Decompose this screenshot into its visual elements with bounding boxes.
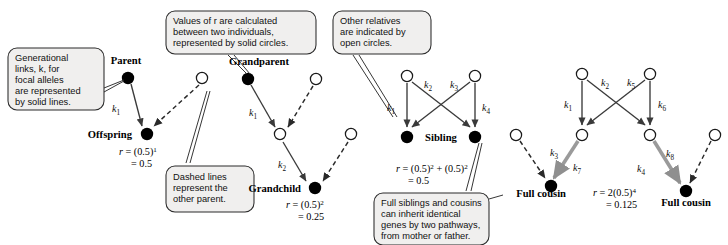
callout-line: Other relatives [340, 16, 401, 26]
svg-text:r = (0.5)2 + (0.5)2: r = (0.5)2 + (0.5)2 [396, 163, 468, 175]
node-offspring [141, 128, 153, 140]
callout-line: Full siblings and cousins [381, 198, 482, 208]
formula-grandchild: r = (0.5)2 = 0.25 [286, 199, 324, 222]
callout-line: are indicated by [340, 27, 406, 37]
callout-line: represent the [173, 183, 228, 193]
callout-line: are represented [15, 86, 81, 96]
callout-line: by solid lines. [15, 97, 71, 107]
node-cousin-gp-right [644, 68, 655, 79]
formula-offspring: r = (0.5)1 = 0.5 [119, 146, 157, 169]
node-sibling-right [469, 131, 481, 143]
label-full-cousin-left: Full cousin [516, 188, 566, 199]
node-sibling-parent-left [401, 70, 412, 81]
edge-label-cousin-k4: k4 [637, 163, 645, 177]
svg-text:= 0.5: = 0.5 [131, 158, 152, 169]
label-grandparent: Grandparent [229, 56, 289, 67]
edge-cousin-right-otherparent [690, 141, 711, 183]
callout-other-relatives: Other relatives are indicated by open ci… [333, 11, 431, 117]
svg-text:= 0.125: = 0.125 [606, 199, 637, 210]
edge-label-sib-k3: k3 [450, 79, 458, 93]
node-cousin-outer-right [709, 129, 720, 140]
edge-otherparent-offspring [154, 85, 199, 126]
node-cousin-parent-left [576, 129, 587, 140]
edge-label-grandparent-k1: k1 [249, 107, 257, 121]
edge-label-cousin-k6: k6 [658, 99, 666, 113]
node-sibling-parent-right [469, 70, 480, 81]
callout-line: can inherit identical [381, 209, 461, 219]
callout-line: Values of r are calculated [173, 16, 277, 26]
node-grandparent [242, 73, 254, 85]
label-offspring: Offspring [88, 129, 133, 140]
callout-dashed-lines: Dashed lines represent the other parent. [166, 91, 254, 212]
callout-line: between two individuals, [173, 27, 274, 37]
node-cousin-outer-left [510, 129, 521, 140]
svg-text:r = (0.5)2: r = (0.5)2 [286, 199, 324, 211]
panel-parent-offspring [122, 72, 208, 140]
panel-full-cousins [510, 68, 720, 197]
edge-label-cousin-k7: k7 [573, 162, 581, 176]
edge-label-sib-k2: k2 [424, 79, 432, 93]
node-parent [122, 72, 134, 84]
node-cousin-parent-right [644, 129, 655, 140]
node-intermediate-parent [274, 128, 285, 139]
svg-text:r = (0.5)1: r = (0.5)1 [119, 146, 157, 158]
edge-grandparent-child [251, 85, 275, 127]
edge-label-grandparent-k2: k2 [278, 159, 286, 173]
node-full-cousin-right [680, 185, 692, 197]
callout-full-siblings: Full siblings and cousins can inherit id… [374, 143, 503, 245]
panel-grandparent-grandchild [242, 73, 357, 194]
label-parent: Parent [111, 55, 142, 66]
svg-text:= 0.5: = 0.5 [408, 175, 429, 186]
node-intermediate-mate [345, 128, 356, 139]
pedigree-figure: Generational links, k, for focal alleles… [0, 0, 728, 245]
formula-sibling: r = (0.5)2 + (0.5)2 = 0.5 [396, 163, 468, 186]
edge-parent-offspring [131, 84, 142, 126]
callout-line: links, k, for [15, 64, 59, 74]
edge-label-cousin-k1: k1 [564, 99, 572, 113]
node-grandparent-mate [310, 73, 321, 84]
node-sibling-left [401, 131, 413, 143]
label-grandchild: Grandchild [249, 183, 302, 194]
node-grandchild [309, 182, 321, 194]
formula-cousin: r = 2(0.5)4 = 0.125 [593, 187, 637, 210]
callout-leader-dashed-2 [190, 91, 210, 163]
edge-cousin-left-otherparent [520, 141, 545, 178]
diagram-graphics-layer: Generational links, k, for focal alleles… [0, 0, 728, 245]
callout-line: open circles. [340, 38, 392, 48]
edge-label-cousin-k3: k3 [550, 147, 558, 161]
callout-line: Generational [15, 53, 68, 63]
callout-line: other parent. [173, 194, 226, 204]
callout-line: genes by two pathways, [381, 220, 480, 230]
callout-generational-links: Generational links, k, for focal alleles… [8, 48, 124, 110]
callout-line: represented by solid circles. [173, 38, 288, 48]
edge-label-sib-k4: k4 [482, 102, 490, 116]
node-cousin-gp-left [576, 68, 587, 79]
callout-leader-dashed [186, 91, 207, 163]
callout-line: focal alleles [15, 75, 64, 85]
label-full-cousin-right: Full cousin [661, 197, 711, 208]
edge-gp-mate-child [288, 86, 313, 127]
svg-text:= 0.25: = 0.25 [298, 211, 324, 222]
edge-label-parent-k1: k1 [112, 103, 120, 117]
svg-text:r = 2(0.5)4: r = 2(0.5)4 [593, 187, 636, 199]
callout-leader-cousin [489, 195, 503, 199]
label-sibling: Sibling [425, 132, 458, 143]
callout-line: from mother or father. [381, 231, 470, 241]
callout-line: Dashed lines [173, 172, 227, 182]
edge-child-grandchild [283, 142, 306, 181]
edge-label-cousin-k5: k5 [627, 77, 635, 91]
node-parent-mate [196, 72, 207, 83]
edge-label-cousin-k2: k2 [601, 77, 609, 91]
edge-mate-grandchild [323, 142, 348, 181]
edge-label-sib-k1: k1 [387, 102, 395, 116]
